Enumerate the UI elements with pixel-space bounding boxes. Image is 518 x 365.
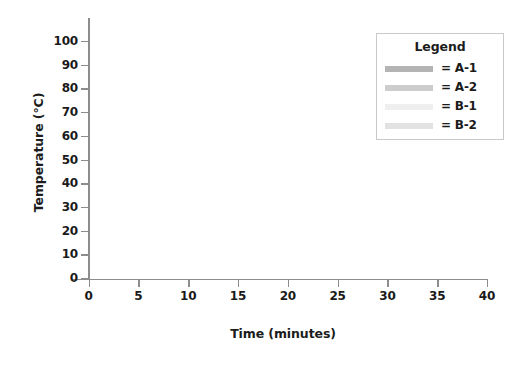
- y-tick-label: 30: [38, 200, 78, 214]
- legend-label: = B-1: [441, 98, 477, 115]
- legend-item: = A-2: [377, 79, 503, 98]
- x-tick-label: 0: [74, 289, 104, 303]
- x-tick-label: 25: [323, 289, 353, 303]
- x-tick-mark: [89, 279, 90, 287]
- legend: Legend = A-1 = A-2 = B-1 = B-2: [376, 33, 504, 140]
- legend-swatch-b-1: [385, 104, 433, 110]
- legend-title: Legend: [377, 39, 503, 54]
- y-tick-label: 60: [38, 129, 78, 143]
- y-tick-label: 100: [38, 34, 78, 48]
- x-tick-mark: [138, 279, 139, 287]
- y-tick-label: 20: [38, 224, 78, 238]
- legend-item: = A-1: [377, 60, 503, 79]
- y-tick-mark: [81, 231, 89, 232]
- x-tick-mark: [487, 279, 488, 287]
- legend-item: = B-2: [377, 117, 503, 136]
- y-tick-mark: [81, 88, 89, 89]
- y-tick-mark: [81, 112, 89, 113]
- x-tick-label: 20: [273, 289, 303, 303]
- legend-items: = A-1 = A-2 = B-1 = B-2: [377, 60, 503, 136]
- x-tick-mark: [338, 279, 339, 287]
- x-tick-label: 35: [422, 289, 452, 303]
- y-tick-label: 10: [38, 247, 78, 261]
- y-tick-mark: [81, 65, 89, 66]
- legend-item: = B-1: [377, 98, 503, 117]
- y-tick-label: 40: [38, 176, 78, 190]
- x-tick-label: 40: [472, 289, 502, 303]
- y-tick-label: 80: [38, 81, 78, 95]
- x-tick-mark: [238, 279, 239, 287]
- legend-label: = A-2: [441, 79, 477, 96]
- x-tick-mark: [288, 279, 289, 287]
- legend-swatch-a-2: [385, 85, 433, 91]
- legend-label: = B-2: [441, 117, 477, 134]
- y-tick-mark: [81, 207, 89, 208]
- x-tick-mark: [188, 279, 189, 287]
- legend-label: = A-1: [441, 60, 477, 77]
- y-tick-mark: [81, 41, 89, 42]
- legend-swatch-b-2: [385, 123, 433, 129]
- x-axis-title: Time (minutes): [88, 326, 478, 341]
- x-tick-label: 15: [223, 289, 253, 303]
- x-tick-mark: [437, 279, 438, 287]
- y-tick-label: 0: [38, 271, 78, 285]
- y-tick-mark: [81, 160, 89, 161]
- x-tick-label: 10: [173, 289, 203, 303]
- y-tick-mark: [81, 136, 89, 137]
- x-tick-label: 30: [372, 289, 402, 303]
- x-tick-label: 5: [123, 289, 153, 303]
- y-tick-label: 50: [38, 153, 78, 167]
- y-tick-mark: [81, 254, 89, 255]
- y-tick-mark: [81, 183, 89, 184]
- x-axis-line: [72, 279, 487, 281]
- y-tick-label: 90: [38, 58, 78, 72]
- x-tick-mark: [387, 279, 388, 287]
- y-tick-label: 70: [38, 105, 78, 119]
- temperature-time-chart: Temperature (°C) 100 90 80 70 60 50 40 3…: [0, 0, 518, 365]
- legend-swatch-a-1: [385, 66, 433, 72]
